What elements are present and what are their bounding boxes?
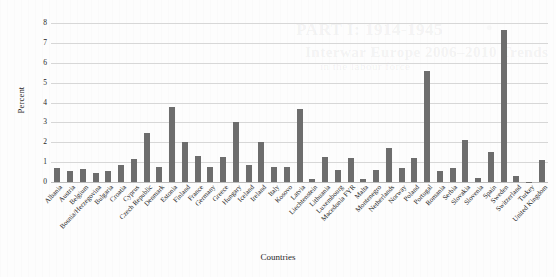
bar-slot — [536, 23, 549, 182]
bar-slot — [497, 23, 510, 182]
y-tick-label-3: 3 — [43, 119, 47, 127]
bar — [258, 142, 264, 182]
y-tick-label-0: 0 — [43, 178, 47, 186]
bar-slot — [230, 23, 243, 182]
bar — [411, 158, 417, 182]
bar — [105, 171, 111, 182]
bar — [93, 173, 99, 182]
y-tick-label-4: 4 — [43, 99, 47, 107]
bar — [169, 107, 175, 182]
bar-slot — [89, 23, 102, 182]
bar-slot — [77, 23, 90, 182]
bar-slot — [459, 23, 472, 182]
y-tick-label-2: 2 — [43, 139, 47, 147]
bar — [67, 171, 73, 182]
bar-slot — [408, 23, 421, 182]
bar-slot — [332, 23, 345, 182]
bar — [195, 156, 201, 182]
bar — [424, 71, 430, 182]
bar — [335, 170, 341, 182]
bar-slot — [357, 23, 370, 182]
bar — [284, 167, 290, 182]
bar-slot — [523, 23, 536, 182]
bar — [182, 142, 188, 182]
bar-slot — [383, 23, 396, 182]
bar-slot — [128, 23, 141, 182]
bar-slot — [204, 23, 217, 182]
bar-slot — [115, 23, 128, 182]
bar — [437, 171, 443, 182]
bar — [513, 176, 519, 182]
bar-slot — [255, 23, 268, 182]
y-tick-label-8: 8 — [43, 19, 47, 27]
bar — [360, 179, 366, 182]
bar — [233, 122, 239, 182]
bar-slot — [344, 23, 357, 182]
bar-slot — [293, 23, 306, 182]
y-tick-label-7: 7 — [43, 39, 47, 47]
bar — [488, 152, 494, 182]
bar-chart-figure: PART I: 1914-1945 Interwar Europe 2006–2… — [0, 0, 556, 277]
bar-slot — [268, 23, 281, 182]
bar — [322, 157, 328, 182]
bar-slot — [306, 23, 319, 182]
bar — [348, 158, 354, 182]
bar-slot — [64, 23, 77, 182]
bar-slot — [446, 23, 459, 182]
bar — [501, 30, 507, 182]
bar-slot — [434, 23, 447, 182]
bar-slot — [281, 23, 294, 182]
bar-slot — [395, 23, 408, 182]
bar-slot — [217, 23, 230, 182]
bar — [271, 167, 277, 182]
bar-slot — [102, 23, 115, 182]
x-tick-labels-group: AlbaniaAustriaBelgiumBosnia/HerzegovinaB… — [51, 184, 548, 246]
bar — [450, 168, 456, 182]
bar-slot — [166, 23, 179, 182]
y-tick-label-5: 5 — [43, 79, 47, 87]
bar — [220, 157, 226, 182]
bar — [80, 169, 86, 182]
bar-slot — [179, 23, 192, 182]
y-tick-label-1: 1 — [43, 158, 47, 166]
bar-slot — [140, 23, 153, 182]
bar — [131, 159, 137, 182]
y-tick-label-6: 6 — [43, 59, 47, 67]
bar-slot — [421, 23, 434, 182]
bar-slot — [319, 23, 332, 182]
bar — [539, 160, 545, 182]
y-axis-title: Percent — [16, 70, 26, 130]
bar-slot — [51, 23, 64, 182]
bar-slot — [191, 23, 204, 182]
bar — [144, 133, 150, 182]
bar — [399, 168, 405, 183]
bars-group — [51, 23, 548, 182]
bar — [156, 167, 162, 182]
bar-slot — [153, 23, 166, 182]
bar — [475, 178, 481, 182]
bar-slot — [485, 23, 498, 182]
bar — [373, 170, 379, 182]
bar — [386, 148, 392, 182]
bar-slot — [370, 23, 383, 182]
bar — [207, 167, 213, 182]
plot-area: 012345678 — [51, 23, 548, 182]
gridline-0 — [51, 182, 548, 183]
bar — [309, 179, 315, 182]
bar-slot — [510, 23, 523, 182]
bar — [118, 165, 124, 182]
x-axis-title: Countries — [0, 252, 556, 262]
bar — [462, 140, 468, 182]
bar — [246, 165, 252, 182]
bar — [297, 109, 303, 182]
bar-slot — [242, 23, 255, 182]
bar-slot — [472, 23, 485, 182]
bar — [54, 168, 60, 182]
